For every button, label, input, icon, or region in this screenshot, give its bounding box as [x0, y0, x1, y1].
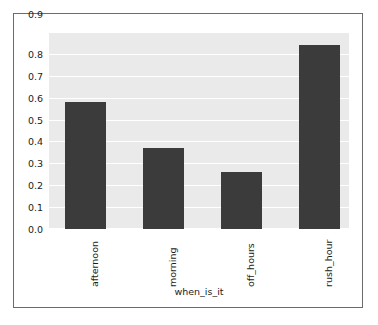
bar-morning[interactable]	[143, 148, 184, 229]
x-tick-label-afternoon: afternoon	[89, 241, 100, 287]
y-tick-label: 0.3	[28, 158, 43, 169]
x-axis-tick-labels: afternoon morning off_hours rush_hour	[49, 229, 349, 291]
x-axis-label: when_is_it	[49, 286, 349, 297]
y-tick-label: 0.4	[28, 136, 43, 147]
y-tick-label: 0.7	[28, 70, 43, 81]
x-tick-label-morning: morning	[167, 247, 178, 287]
bar-rush-hour[interactable]	[299, 45, 340, 229]
bar-off-hours[interactable]	[221, 172, 262, 229]
gridline	[49, 32, 349, 33]
y-tick-label: 0.1	[28, 202, 43, 213]
y-tick-label: 0.8	[28, 48, 43, 59]
x-tick-label-off-hours: off_hours	[245, 243, 256, 287]
plot-area	[49, 32, 349, 229]
x-tick-label-rush-hour: rush_hour	[323, 240, 334, 287]
y-tick-label: 0.0	[28, 224, 43, 235]
bar-afternoon[interactable]	[65, 102, 106, 229]
figure-frame: 0.9 0.8 0.7 0.6 0.5 0.4 0.3 0.2 0.1 0.0 …	[13, 13, 363, 308]
y-tick-label: 0.9	[28, 9, 43, 20]
y-tick-label: 0.5	[28, 114, 43, 125]
y-tick-label: 0.6	[28, 92, 43, 103]
y-axis-tick-labels: 0.9 0.8 0.7 0.6 0.5 0.4 0.3 0.2 0.1 0.0	[14, 14, 47, 307]
y-tick-label: 0.2	[28, 180, 43, 191]
